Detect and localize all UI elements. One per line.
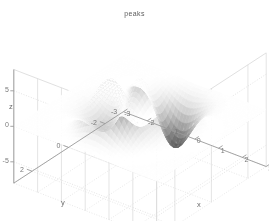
surface-plot-canvas: [0, 0, 269, 221]
figure-window: peaks z y x -505-202-3-3-2-10123: [0, 0, 269, 221]
